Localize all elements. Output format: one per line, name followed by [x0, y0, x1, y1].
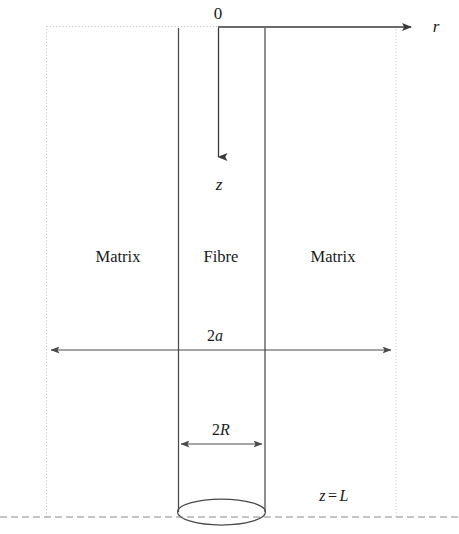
axial-end-symbol-z: z — [319, 487, 326, 504]
origin-label: 0 — [214, 5, 223, 22]
axial-end-boundary-label: z=L — [319, 488, 349, 504]
fibre-end-ellipse — [178, 499, 266, 525]
outer-dimension-number: 2 — [207, 327, 215, 344]
outer-dimension-symbol: a — [215, 327, 223, 344]
axial-end-equals: = — [326, 487, 340, 504]
region-label-right-matrix: Matrix — [311, 249, 356, 266]
axial-end-symbol-L: L — [339, 487, 348, 504]
outer-dimension-label: 2a — [207, 328, 223, 344]
radial-axis-label: r — [433, 18, 440, 35]
fibre-dimension-label: 2R — [212, 422, 230, 438]
fibre-matrix-diagram: 0 r z Matrix Fibre Matrix 2a 2R z=L — [0, 0, 459, 534]
diagram-canvas — [0, 0, 459, 534]
fibre-dimension-symbol: R — [220, 421, 230, 438]
region-label-fibre: Fibre — [204, 249, 239, 266]
axial-axis-label: z — [216, 176, 223, 193]
region-label-left-matrix: Matrix — [96, 249, 141, 266]
fibre-dimension-number: 2 — [212, 421, 220, 438]
